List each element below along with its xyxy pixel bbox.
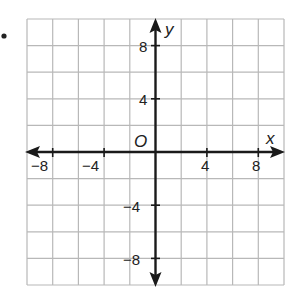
x-tick-label-4: 4 [201, 157, 209, 174]
x-tick-label-neg8: −8 [31, 157, 48, 174]
x-tick-label-neg4: −4 [82, 157, 99, 174]
coordinate-plane: y x O −8 −4 4 8 8 4 −4 −8 [0, 0, 298, 305]
y-tick-label-neg8: −8 [123, 251, 140, 268]
x-tick-label-8: 8 [252, 157, 260, 174]
y-tick-label-neg4: −4 [123, 198, 140, 215]
y-tick-label-4: 4 [139, 91, 147, 108]
origin-label: O [134, 132, 147, 151]
y-axis-label: y [164, 20, 175, 39]
y-tick-label-8: 8 [139, 38, 147, 55]
bullet-marker [1, 33, 6, 38]
x-axis-label: x [265, 129, 275, 148]
